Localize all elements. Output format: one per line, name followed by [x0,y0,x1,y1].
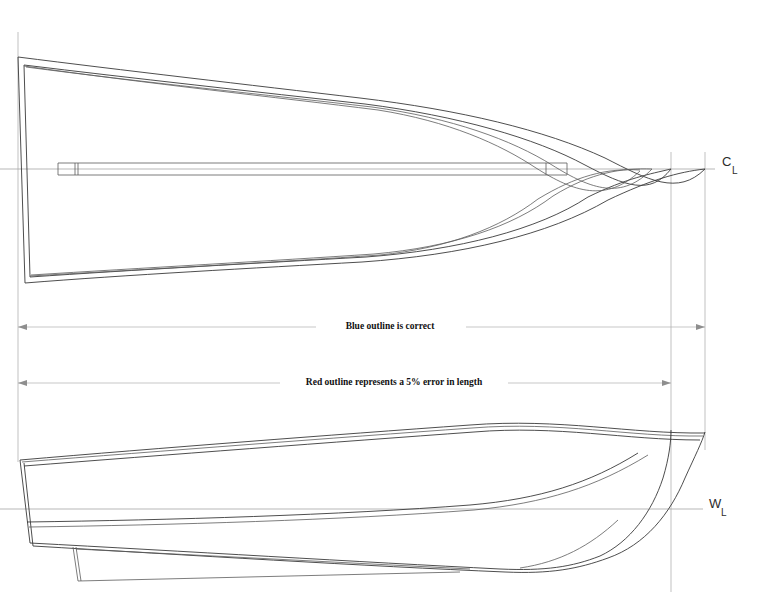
drawing-canvas: Blue outline is correct Red outline repr… [0,0,763,610]
centerline-label: C L [722,154,738,176]
skeg-top-edge [76,549,470,569]
annotation-blue-outline: Blue outline is correct [346,321,436,331]
plan-waterline-curve-lower-b [30,170,640,276]
dimension-arrow-left-error [18,380,27,386]
plan-outline-correct-upper [24,65,671,185]
skeg-forward-edge [73,547,78,581]
plan-view [18,57,705,283]
hull-lines-drawing: Blue outline is correct Red outline repr… [0,0,763,610]
plan-waterline-curve-upper-a [26,67,652,188]
plan-outline-error-lower [25,169,705,283]
profile-boottop-error [29,455,648,527]
profile-sheer-correct [24,430,700,466]
plan-waterline-curve-upper-b [24,66,640,191]
profile-keel-correct [30,543,600,569]
waterline-label: W L [709,496,727,518]
annotation-red-outline: Red outline represents a 5% error in len… [306,377,483,387]
centerline-label-subscript: L [732,165,738,176]
skeg-forward-edge-2 [76,547,81,581]
dimension-group-correct: Blue outline is correct [18,319,705,334]
profile-boottop-correct [27,453,638,522]
skeg-bottom-edge [78,572,460,581]
dimension-arrow-right-correct [696,324,705,330]
reference-lines [0,32,715,592]
profile-forefoot-transition [520,520,618,568]
dimension-group-error: Red outline represents a 5% error in len… [18,375,671,390]
profile-stem-correct [600,430,671,556]
profile-view [20,423,705,581]
centerline-label-letter: C [722,154,731,169]
profile-rubrail-line [22,426,703,462]
plan-transom-outer [18,57,25,283]
waterline-label-subscript: L [721,507,727,518]
plan-transom-inner [24,65,30,277]
dimension-arrow-left-correct [18,324,27,330]
plan-waterline-curve-lower-a [31,169,652,275]
dimension-arrow-right-error [662,380,671,386]
plan-outline-correct-lower [30,169,671,277]
